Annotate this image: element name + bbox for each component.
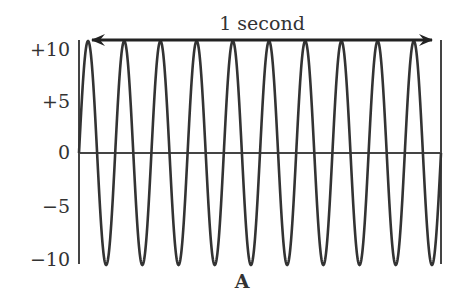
duration-caption: 1 second [219, 12, 305, 34]
ytick-zero: 0 [58, 141, 70, 163]
ytick-neg5: −5 [42, 195, 70, 217]
sine-wave-line [79, 41, 441, 265]
ytick-pos10: +10 [30, 38, 70, 60]
ytick-neg10: −10 [30, 248, 70, 270]
ytick-pos5: +5 [42, 90, 70, 112]
sine-wave-chart: 1 second +10 +5 0 −5 −10 A [0, 0, 466, 297]
panel-label: A [234, 270, 250, 292]
